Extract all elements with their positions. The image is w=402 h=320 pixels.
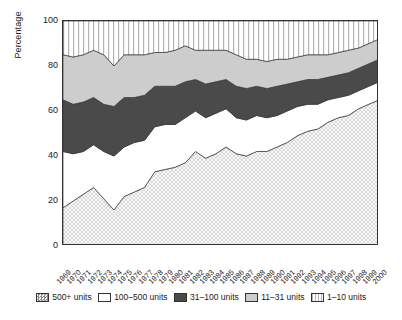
legend-item[interactable]: 11–31 units (245, 292, 305, 302)
y-axis-tick-label: 20 (24, 195, 58, 205)
y-axis-tick-label: 80 (24, 60, 58, 70)
legend-item[interactable]: 31–100 units (174, 292, 239, 302)
x-axis-ticks: 1969197019711972197319741975197619771978… (62, 246, 378, 288)
y-axis-tick-label: 40 (24, 150, 58, 160)
legend-label: 11–31 units (261, 292, 304, 302)
legend-item[interactable]: 1–10 units (311, 292, 367, 302)
plot-area (62, 20, 378, 245)
chart-container: Percentage 020406080100 1969197019711972… (0, 0, 402, 320)
y-axis-title: Percentage (13, 0, 23, 90)
y-axis-tick-label: 60 (24, 105, 58, 115)
y-axis-tick-label: 0 (24, 240, 58, 250)
legend-label: 100–500 units (114, 292, 167, 302)
y-axis-tick-label: 100 (24, 15, 58, 25)
legend-swatch-solid-white (98, 293, 111, 302)
legend-label: 31–100 units (190, 292, 239, 302)
legend-item[interactable]: 100–500 units (98, 292, 168, 302)
stacked-area-plot (63, 21, 378, 245)
legend-swatch-solid-light (245, 293, 258, 302)
legend-label: 500+ units (52, 292, 91, 302)
legend-swatch-stripes (311, 293, 324, 302)
y-axis-ticks: 020406080100 (24, 0, 58, 320)
legend-swatch-solid-dark (174, 293, 187, 302)
chart-legend: 500+ units100–500 units31–100 units11–31… (0, 292, 402, 302)
legend-item[interactable]: 500+ units (36, 292, 92, 302)
legend-label: 1–10 units (327, 292, 366, 302)
legend-swatch-dots (36, 293, 49, 302)
